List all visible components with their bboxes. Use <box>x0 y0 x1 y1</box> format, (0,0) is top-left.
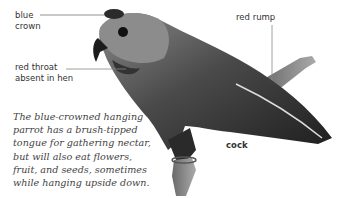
label-line: crown <box>15 21 41 32</box>
caption-line: but will also eat flowers, <box>13 150 163 163</box>
label-blue-crown: blue crown <box>15 10 41 31</box>
caption-line: parrot has a brush-tipped <box>13 123 163 136</box>
caption-line: while hanging upside down. <box>13 176 163 189</box>
caption-line: tongue for gathering nectar, <box>13 136 163 149</box>
caption-line: The blue-crowned hanging <box>13 110 163 123</box>
caption-text: The blue-crowned hanging parrot has a br… <box>13 110 163 189</box>
label-sex: cock <box>226 140 248 151</box>
label-red-throat: red throat absent in hen <box>15 62 73 83</box>
label-line: red throat <box>15 62 73 73</box>
label-red-rump: red rump <box>236 12 275 23</box>
label-line: absent in hen <box>15 73 73 84</box>
parrot-illustration-panel: blue crown red throat absent in hen red … <box>0 0 344 198</box>
caption-line: fruit, and seeds, sometimes <box>13 163 163 176</box>
label-line: blue <box>15 10 41 21</box>
